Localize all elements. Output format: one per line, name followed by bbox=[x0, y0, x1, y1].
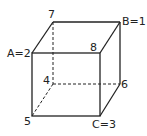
label-c: C=3 bbox=[92, 119, 116, 130]
label-6: 6 bbox=[121, 79, 128, 90]
label-5: 5 bbox=[24, 116, 31, 127]
hidden-bottom-left-edge bbox=[32, 84, 53, 116]
label-4: 4 bbox=[43, 75, 50, 86]
label-a: A=2 bbox=[7, 48, 31, 59]
top-right-edge bbox=[100, 22, 120, 53]
label-b: B=1 bbox=[122, 16, 146, 27]
bottom-right-edge bbox=[100, 84, 120, 116]
top-left-edge bbox=[32, 22, 53, 53]
label-8: 8 bbox=[90, 42, 97, 53]
label-7: 7 bbox=[48, 9, 55, 20]
